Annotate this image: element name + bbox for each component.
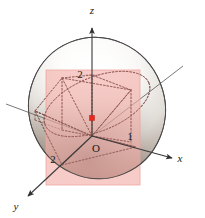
x-axis-tick-label: 1: [127, 130, 133, 142]
figure-canvas: z x y 2 2 1 O: [0, 0, 205, 218]
highlighted-point-marker: [90, 116, 95, 121]
cutting-plane: [46, 70, 140, 185]
highlighted-point: [90, 116, 95, 121]
x-axis-label: x: [177, 152, 183, 164]
y-axis-label: y: [13, 200, 19, 212]
y-axis-tick-label: 2: [50, 153, 56, 165]
origin-label: O: [92, 142, 100, 154]
figure-root: z x y 2 2 1 O: [0, 0, 205, 218]
z-axis-tick-label: 2: [77, 68, 83, 80]
z-axis-label: z: [89, 4, 95, 16]
